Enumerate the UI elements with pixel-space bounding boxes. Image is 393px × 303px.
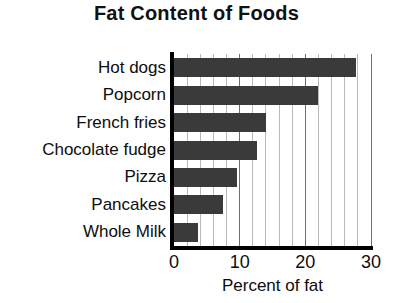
x-tick-label: 10 [230, 252, 250, 273]
category-label: Whole Milk [83, 223, 166, 240]
category-axis: Hot dogsPopcornFrench friesChocolate fud… [0, 54, 170, 246]
gridline-minor [344, 54, 345, 246]
bar [174, 195, 223, 214]
gridline-minor [265, 54, 266, 246]
bar [174, 168, 237, 187]
bar [174, 223, 198, 242]
bar [174, 141, 257, 160]
category-label: Popcorn [103, 86, 166, 103]
category-label: Hot dogs [98, 59, 166, 76]
gridline-minor [357, 54, 358, 246]
gridline-minor [279, 54, 280, 246]
category-label: Pancakes [91, 196, 166, 213]
gridline-minor [318, 54, 319, 246]
x-axis-tick-labels: 0102030 [0, 252, 393, 276]
plot-area [174, 54, 371, 246]
gridline-minor [331, 54, 332, 246]
category-label: Pizza [124, 168, 166, 185]
x-axis-line [170, 246, 373, 250]
y-axis-line [170, 52, 174, 248]
gridline-minor [292, 54, 293, 246]
bar [174, 86, 318, 105]
chart-title: Fat Content of Foods [0, 2, 393, 25]
chart-figure: Fat Content of Foods Hot dogsPopcornFren… [0, 0, 393, 303]
x-tick-label: 0 [169, 252, 179, 273]
x-tick-label: 30 [361, 252, 381, 273]
bar [174, 58, 356, 77]
category-label: French fries [76, 114, 166, 131]
gridline-major [305, 54, 306, 246]
bar [174, 113, 266, 132]
x-tick-label: 20 [295, 252, 315, 273]
x-axis-title: Percent of fat [174, 276, 371, 296]
category-label: Chocolate fudge [42, 141, 166, 158]
gridline-major [371, 54, 372, 246]
